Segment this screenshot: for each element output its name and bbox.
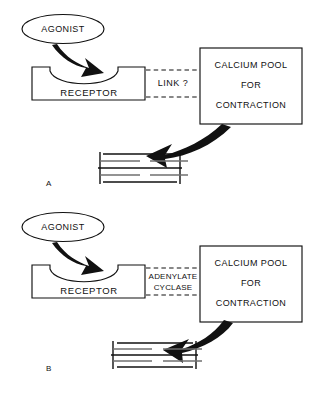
calcium-pool-line-2: FOR [241,278,261,288]
adenylate-cyclase-line-1: ADENYLATE [149,272,198,281]
panel-label-b: B [46,364,51,373]
agonist-label: AGONIST [41,222,84,232]
binding-arrow-icon [52,44,104,77]
calcium-pool-line-1: CALCIUM POOL [215,258,288,268]
muscle-contracted-icon [111,341,202,369]
contraction-arrow-icon [163,320,233,363]
calcium-pool-line-3: CONTRACTION [216,100,286,110]
binding-arrow-icon [52,242,104,275]
panel-b: AGONIST RECEPTOR ADENYLATE CYCLASE CALCI… [22,213,302,374]
panel-label-a: A [46,179,52,188]
calcium-pool-line-2: FOR [241,80,261,90]
agonist-label: AGONIST [41,24,84,34]
calcium-pool-line-1: CALCIUM POOL [215,60,288,70]
link-label: LINK ? [158,78,189,88]
diagram-figure: AGONIST RECEPTOR LINK ? CALCIUM POOL FOR… [0,0,320,393]
diagram-canvas: AGONIST RECEPTOR LINK ? CALCIUM POOL FOR… [0,0,320,393]
panel-a: AGONIST RECEPTOR LINK ? CALCIUM POOL FOR… [22,15,302,189]
receptor-label: RECEPTOR [60,285,117,296]
adenylate-cyclase-line-2: CYCLASE [154,283,193,292]
receptor-label: RECEPTOR [60,87,117,98]
calcium-pool-line-3: CONTRACTION [216,298,286,308]
